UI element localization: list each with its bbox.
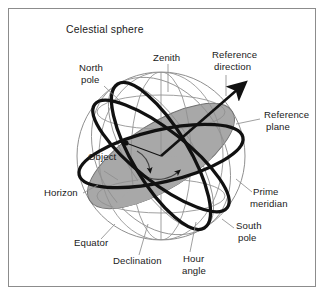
label-hour-angle-line1: Hour: [183, 253, 205, 264]
label-reference-plane-line2: plane: [266, 121, 290, 132]
celestial-sphere-diagram: Celestial sphere Zenith Reference direct…: [0, 0, 327, 304]
object-point-marker: [123, 140, 128, 145]
label-reference-direction-line2: direction: [214, 61, 251, 72]
label-prime-meridian-line1: Prime: [253, 186, 279, 197]
label-reference-plane-line1: Reference: [264, 109, 309, 120]
label-reference-direction-line1: Reference: [212, 49, 257, 60]
celestial-sphere-figure: Celestial sphere Zenith Reference direct…: [0, 0, 327, 304]
label-hour-angle-line2: angle: [182, 265, 206, 276]
label-north-pole-line1: North: [79, 62, 103, 73]
label-north-pole-line2: pole: [81, 74, 100, 85]
label-south-pole-line2: pole: [238, 232, 257, 243]
label-prime-meridian-line2: meridian: [250, 198, 288, 209]
label-object: Object: [88, 151, 117, 162]
figure-title: Celestial sphere: [66, 24, 144, 35]
label-zenith: Zenith: [153, 52, 180, 63]
label-south-pole-line1: South: [236, 220, 262, 231]
label-declination: Declination: [113, 255, 162, 266]
label-horizon: Horizon: [44, 187, 78, 198]
label-equator: Equator: [74, 237, 109, 248]
